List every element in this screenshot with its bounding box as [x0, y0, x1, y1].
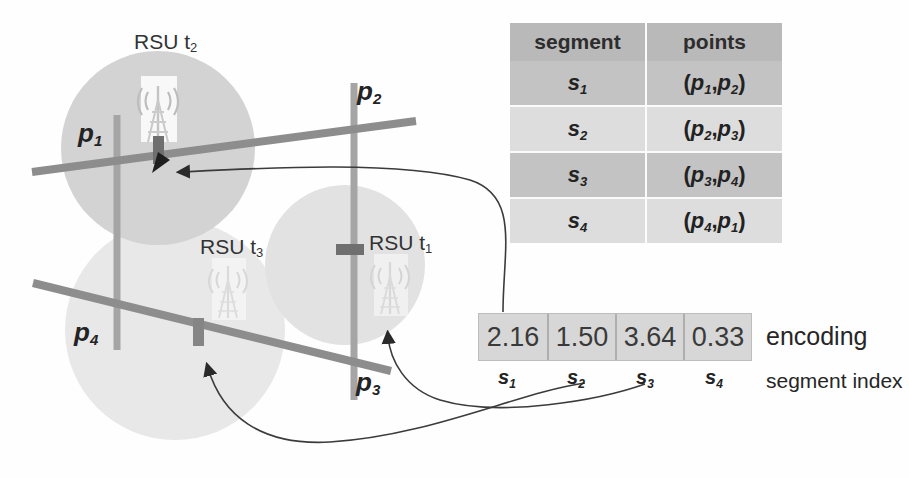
segment-index-s4: s4: [705, 366, 723, 391]
cell-points-s4: (p4,p1): [646, 198, 782, 243]
segment-index-s1: s1: [498, 366, 516, 391]
table-row: s4 (p4,p1): [510, 198, 782, 243]
cell-points-s3: (p3,p4): [646, 152, 782, 198]
cell-segment-s2: s2: [510, 106, 646, 152]
cell-segment-s4: s4: [510, 198, 646, 243]
table-header-segment: segment: [510, 23, 646, 61]
cell-segment-s1: s1: [510, 61, 646, 106]
encoding-caption: encoding: [766, 322, 867, 351]
figure-canvas: p1 p2 p3 p4 RSU t2 RSU t3 RSU t1 segment…: [0, 0, 909, 478]
point-label-p3: p3: [356, 367, 380, 398]
table-header-points: points: [646, 23, 782, 61]
encoding-cell-2: 1.50: [547, 314, 615, 360]
point-label-p4: p4: [74, 317, 98, 348]
encoding-cell-3: 3.64: [615, 314, 683, 360]
segment-index-s3: s3: [636, 366, 654, 391]
rsu-marker-t3: [193, 318, 204, 346]
rsu-label-t1: RSU t1: [369, 231, 432, 256]
cell-segment-s3: s3: [510, 152, 646, 198]
segment-points-table: segment points s1 (p1,p2) s2 (p2,p3): [510, 23, 782, 243]
encoding-cell-4: 0.33: [683, 314, 751, 360]
table-row: s2 (p2,p3): [510, 106, 782, 152]
cell-points-s1: (p1,p2): [646, 61, 782, 106]
cell-points-s2: (p2,p3): [646, 106, 782, 152]
table-header-row: segment points: [510, 23, 782, 61]
table-row: s3 (p3,p4): [510, 152, 782, 198]
rsu-label-t2: RSU t2: [134, 30, 197, 55]
point-label-p2: p2: [357, 76, 381, 107]
encoding-cell-1: 2.16: [479, 314, 547, 360]
point-label-p1: p1: [78, 118, 102, 149]
encoding-vector: 2.16 1.50 3.64 0.33: [478, 313, 752, 361]
segment-index-s2: s2: [567, 366, 585, 391]
table-row: s1 (p1,p2): [510, 61, 782, 106]
segment-index-caption: segment index: [766, 369, 903, 393]
rsu-marker-t1: [336, 244, 364, 255]
rsu-label-t3: RSU t3: [200, 235, 263, 260]
